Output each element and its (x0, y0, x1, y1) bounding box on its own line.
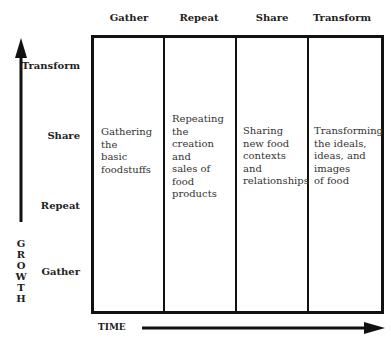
cell-line: new food (243, 138, 309, 151)
cell-line: and (172, 151, 224, 164)
row-label-gather: Gather (0, 266, 80, 277)
growth-letter: O (14, 260, 28, 271)
cell-line: basic (101, 151, 152, 164)
time-arrow-icon (142, 320, 386, 336)
growth-letter: H (14, 293, 28, 304)
cell-line: sales of (172, 163, 224, 176)
cell-transform: Transforming the ideals, ideas, and imag… (314, 125, 383, 188)
stage-grid: Gathering the basic foodstuffs Repeating… (91, 35, 384, 314)
cell-line: creation (172, 138, 224, 151)
growth-arrow-icon (12, 38, 32, 224)
column-divider (235, 38, 237, 311)
cell-line: Repeating (172, 113, 224, 126)
cell-gather: Gathering the basic foodstuffs (101, 126, 152, 176)
growth-letter: R (14, 249, 28, 260)
column-header-share: Share (236, 12, 308, 23)
growth-letter: G (14, 238, 28, 249)
growth-letter: W (14, 271, 28, 282)
cell-line: of food (314, 175, 383, 188)
cell-line: ideas, and (314, 150, 383, 163)
time-axis-label: TIME (98, 322, 126, 332)
cell-line: Sharing (243, 125, 309, 138)
cell-line: contexts (243, 150, 309, 163)
cell-line: foodstuffs (101, 164, 152, 177)
growth-letter: T (14, 282, 28, 293)
cell-line: and (243, 163, 309, 176)
cell-line: products (172, 188, 224, 201)
column-divider (163, 38, 165, 311)
column-header-gather: Gather (93, 12, 165, 23)
cell-line: the (101, 139, 152, 152)
cell-line: food (172, 176, 224, 189)
growth-axis-label: G R O W T H (14, 238, 28, 304)
column-header-transform: Transform (306, 12, 378, 23)
cell-repeat: Repeating the creation and sales of food… (172, 113, 224, 201)
column-header-repeat: Repeat (163, 12, 235, 23)
cell-share: Sharing new food contexts and relationsh… (243, 125, 309, 188)
cell-line: the ideals, (314, 138, 383, 151)
cell-line: images (314, 163, 383, 176)
cell-line: relationships (243, 175, 309, 188)
cell-line: the (172, 126, 224, 139)
cell-line: Transforming (314, 125, 383, 138)
cell-line: Gathering (101, 126, 152, 139)
